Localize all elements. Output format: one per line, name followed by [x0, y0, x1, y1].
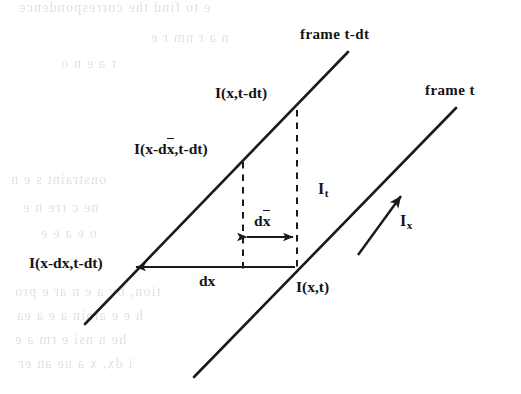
it-subscript: t	[324, 187, 328, 199]
label-it-temporal-derivative: It	[318, 180, 328, 199]
label-intensity-x-t: I(x,t)	[296, 278, 329, 296]
dx-bar-prefix: d	[254, 212, 263, 229]
label-ix-spatial-derivative: Ix	[400, 212, 412, 231]
diagram-svg	[0, 0, 521, 394]
label-frame-t: frame t	[425, 82, 475, 99]
ix-gradient-arrow	[358, 196, 401, 255]
label-intensity-x-minus-dx-t-dt: I(x-dx,t-dt)	[29, 254, 103, 272]
dx-bar-overbar-x: x	[263, 212, 271, 230]
label-frame-t-dt: frame t-dt	[300, 26, 369, 43]
label-dx-bar-inner: dx	[254, 212, 270, 230]
label-intensity-x-minus-dxbar-t-dt: I(x-dx,t-dt)	[134, 140, 208, 158]
frame-t-line	[194, 108, 456, 377]
label-intensity-x-t-dt: I(x,t-dt)	[215, 84, 267, 102]
figure-canvas: e to find the correspondence n a r nm r …	[0, 0, 521, 394]
intensity-prefix: I(x-d	[134, 140, 167, 157]
intensity-suffix: ,t-dt)	[174, 140, 207, 157]
label-dx-outer: dx	[199, 272, 215, 290]
ix-subscript: x	[406, 219, 412, 231]
intensity-overbar-x: x	[167, 140, 175, 158]
